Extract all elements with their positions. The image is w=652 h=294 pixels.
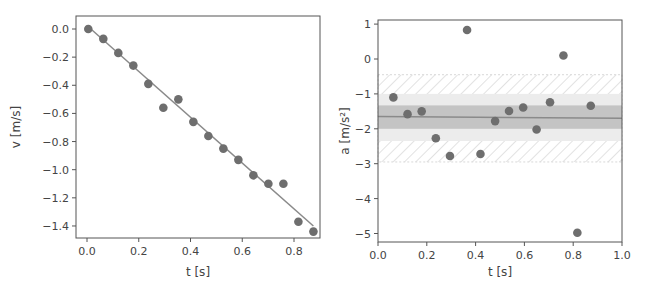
acceleration-data-point [389, 93, 398, 102]
velocity-data-point [114, 49, 123, 58]
acceleration-data-point [446, 152, 455, 161]
velocity-data-point [249, 171, 258, 180]
acceleration-data-point [432, 134, 441, 143]
y-tick-label: −1.4 [42, 220, 69, 233]
y-tick-label: −5 [355, 228, 371, 241]
x-tick-label: 0.8 [285, 245, 303, 258]
y-tick-label: −0.2 [42, 51, 69, 64]
x-tick-label: 1.0 [613, 249, 631, 262]
x-tick-label: 0.2 [130, 245, 148, 258]
velocity-x-ticks: 0.00.20.40.60.8 [78, 238, 303, 258]
acceleration-data-point [586, 101, 595, 110]
velocity-data-point [279, 179, 288, 188]
acceleration-data-point [491, 117, 500, 126]
acceleration-data-point [476, 150, 485, 159]
acceleration-x-ticks: 0.00.20.40.60.81.0 [369, 242, 631, 262]
acceleration-data-point [417, 107, 426, 116]
velocity-data-point [309, 227, 318, 236]
acceleration-data-point [546, 98, 555, 107]
acceleration-data-point [532, 125, 541, 134]
y-tick-label: −0.8 [42, 136, 69, 149]
velocity-chart: 0.00.20.40.60.8 0.0−0.2−0.4−0.6−0.8−1.0−… [9, 16, 320, 279]
velocity-data-point [144, 80, 153, 89]
velocity-data-point [129, 61, 138, 70]
y-tick-label: −2 [355, 123, 371, 136]
acceleration-y-label: a [m/s²] [338, 107, 352, 154]
velocity-axes-frame [76, 16, 320, 238]
y-tick-label: −4 [355, 193, 371, 206]
velocity-data-point [204, 132, 213, 141]
velocity-data-point [264, 179, 273, 188]
velocity-plot-area [84, 25, 318, 236]
x-tick-label: 0.2 [418, 249, 436, 262]
velocity-y-label: v [m/s] [9, 106, 23, 148]
velocity-data-point [84, 25, 93, 34]
velocity-fit-line [91, 29, 314, 226]
x-tick-label: 0.4 [467, 249, 485, 262]
x-tick-label: 0.6 [234, 245, 252, 258]
acceleration-data-point [559, 51, 568, 60]
y-tick-label: 0.0 [52, 23, 70, 36]
acceleration-data-point [505, 107, 514, 116]
y-tick-label: −3 [355, 158, 371, 171]
acceleration-y-ticks: 10−1−2−3−4−5 [355, 18, 378, 240]
x-tick-label: 0.0 [369, 249, 387, 262]
x-tick-label: 0.0 [78, 245, 96, 258]
velocity-x-label: t [s] [186, 265, 210, 279]
figure: 0.00.20.40.60.8 0.0−0.2−0.4−0.6−0.8−1.0−… [0, 0, 652, 294]
acceleration-data-point [403, 110, 412, 119]
x-tick-label: 0.6 [516, 249, 534, 262]
x-tick-label: 0.8 [564, 249, 582, 262]
velocity-data-point [189, 118, 198, 127]
velocity-data-point [99, 35, 108, 44]
velocity-data-point [174, 95, 183, 104]
y-tick-label: −0.4 [42, 79, 69, 92]
acceleration-x-label: t [s] [488, 265, 512, 279]
acceleration-data-point [573, 229, 582, 238]
velocity-data-point [294, 217, 303, 226]
acceleration-chart: 0.00.20.40.60.81.0 10−1−2−3−4−5 t [s] a … [338, 18, 631, 279]
acceleration-data-point [463, 26, 472, 35]
acceleration-data-point [519, 103, 528, 112]
velocity-data-point [219, 144, 228, 153]
velocity-data-point [159, 103, 168, 112]
y-tick-label: 1 [364, 18, 371, 31]
x-tick-label: 0.4 [182, 245, 200, 258]
y-tick-label: −1.2 [42, 192, 69, 205]
velocity-y-ticks: 0.0−0.2−0.4−0.6−0.8−1.0−1.2−1.4 [42, 23, 76, 233]
y-tick-label: −1.0 [42, 164, 69, 177]
velocity-data-point [234, 156, 243, 165]
y-tick-label: −1 [355, 88, 371, 101]
y-tick-label: −0.6 [42, 107, 69, 120]
y-tick-label: 0 [364, 53, 371, 66]
